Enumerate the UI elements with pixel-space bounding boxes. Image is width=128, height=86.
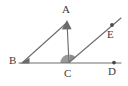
dot-marker-d [112, 61, 116, 65]
vertex-label-e: E [107, 29, 114, 40]
vertex-label-d: D [108, 66, 116, 77]
angle-mark-acb [60, 54, 69, 63]
vertex-label-b: B [9, 55, 16, 66]
arrowhead-marker-a [62, 20, 72, 30]
geometry-figure: A B C D E [0, 0, 128, 86]
vertex-label-c: C [64, 68, 71, 79]
segment-ba [23, 23, 68, 63]
dot-marker-e [110, 23, 114, 27]
vertex-label-a: A [62, 4, 70, 15]
